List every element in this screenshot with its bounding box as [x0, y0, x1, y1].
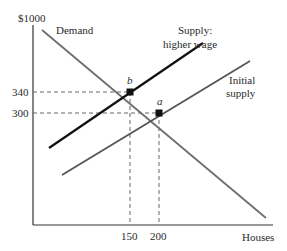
demand-label: Demand [56, 24, 93, 36]
y-axis-unit-label: $1000 [18, 12, 46, 24]
xtick-200: 200 [150, 230, 167, 242]
supply-initial-line [62, 61, 250, 175]
xtick-150: 150 [121, 230, 138, 242]
supply-initial-label-1: Initial [229, 74, 255, 86]
supply-higher-wage-label-1: Supply: [178, 24, 212, 36]
supply-higher-wage-line [49, 43, 203, 148]
point-a-label: a [157, 95, 163, 107]
point-a-marker [156, 110, 163, 117]
point-b-marker [127, 89, 134, 96]
supply-demand-chart [0, 0, 287, 251]
ytick-340: 340 [12, 86, 29, 98]
demand-line [42, 30, 266, 218]
x-axis-label: Houses [242, 231, 274, 243]
point-b-label: b [127, 74, 133, 86]
supply-higher-wage-label-2: higher wage [163, 38, 217, 50]
supply-initial-label-2: supply [226, 87, 255, 99]
ytick-300: 300 [12, 107, 29, 119]
